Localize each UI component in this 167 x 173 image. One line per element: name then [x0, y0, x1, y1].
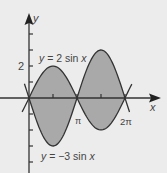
curve1-annotation: y = 2 sin x	[39, 53, 87, 64]
x-axis-label: x	[150, 102, 156, 113]
plot-area	[0, 0, 167, 173]
y-tick-label-2: 2	[18, 61, 24, 72]
y-axis-label: y	[33, 13, 39, 24]
curve2-annotation: y = −3 sin x	[41, 151, 95, 162]
x-tick-label-pi: π	[75, 117, 81, 126]
x-tick-label-2pi: 2π	[120, 117, 132, 127]
figure: y x 2 π 2π y = 2 sin x y = −3 sin x	[0, 0, 167, 173]
